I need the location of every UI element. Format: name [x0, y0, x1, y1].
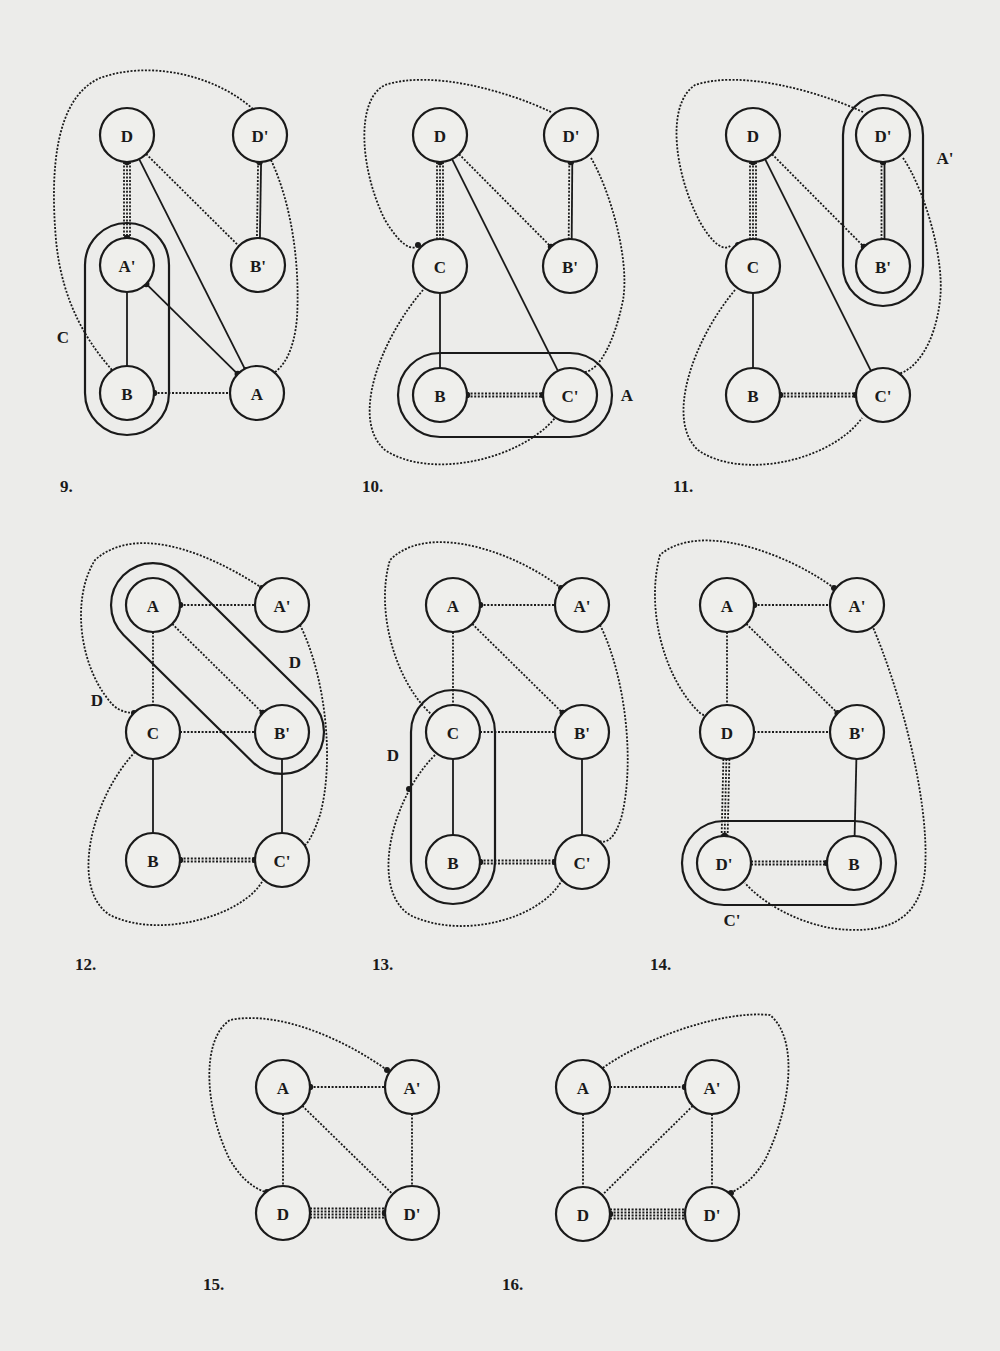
- node-label: D': [875, 127, 892, 146]
- figure-number: 12.: [75, 955, 96, 974]
- node-label: B: [848, 855, 859, 874]
- node-label: A: [251, 385, 264, 404]
- graph-node: C: [126, 705, 180, 759]
- node-label: A: [147, 597, 160, 616]
- graph-node: A: [230, 366, 284, 420]
- node-label: D: [721, 724, 733, 743]
- outer-region-curve: [388, 755, 562, 926]
- graph-node: C': [543, 368, 597, 422]
- node-label: D': [704, 1206, 721, 1225]
- figure-number: 9.: [60, 477, 73, 496]
- graph-node: A: [556, 1060, 610, 1114]
- node-label: D: [434, 127, 446, 146]
- graph-node: B': [543, 239, 597, 293]
- node-label: A: [277, 1079, 290, 1098]
- graph-edge: [746, 624, 837, 713]
- node-label: B: [121, 385, 132, 404]
- outer-region-curve: [745, 625, 926, 930]
- graph-node: A': [255, 578, 309, 632]
- node-label: A': [574, 597, 591, 616]
- node-label: C: [434, 258, 446, 277]
- graph-edge: [855, 759, 857, 836]
- graph-edge: [172, 624, 263, 713]
- graph-node: B': [231, 238, 285, 292]
- graph-node: D': [697, 836, 751, 890]
- figure-number: 15.: [203, 1275, 224, 1294]
- diagram-canvas: DD'A'B'BADD'CB'BC'DD'CB'BC'AA'CB'BC'AA'C…: [0, 0, 1000, 1351]
- node-label: D: [577, 1206, 589, 1225]
- node-label: C': [574, 854, 591, 873]
- figure-number: 11.: [673, 477, 693, 496]
- node-label: A': [404, 1079, 421, 1098]
- graph-node: D: [700, 705, 754, 759]
- figure-number: 16.: [502, 1275, 523, 1294]
- graph-edge: [728, 759, 730, 836]
- node-label: B': [574, 724, 590, 743]
- graph-node: B': [856, 239, 910, 293]
- graph-edge: [472, 624, 563, 713]
- graph-node: D: [556, 1187, 610, 1241]
- graph-edge: [572, 162, 573, 239]
- graph-node: C': [555, 835, 609, 889]
- graph-node: C: [426, 705, 480, 759]
- graph-edge: [722, 759, 724, 836]
- node-label: A': [849, 597, 866, 616]
- region-label: A': [937, 149, 954, 168]
- graph-node: C': [856, 368, 910, 422]
- graph-node: A': [830, 578, 884, 632]
- node-label: A': [274, 597, 291, 616]
- outer-region-curve: [88, 752, 263, 925]
- node-label: C': [562, 387, 579, 406]
- region-label: C: [57, 328, 69, 347]
- graph-node: A': [685, 1060, 739, 1114]
- node-label: D: [277, 1205, 289, 1224]
- node-label: B': [562, 258, 578, 277]
- labels-layer: C9.A10.A'11.DD12.D13.C'14.15.16.: [57, 149, 954, 1295]
- node-label: B: [147, 852, 158, 871]
- graph-node: D: [413, 108, 467, 162]
- figure-number: 14.: [650, 955, 671, 974]
- graph-node: D': [685, 1187, 739, 1241]
- region-label: C': [724, 911, 741, 930]
- graph-node: C: [413, 239, 467, 293]
- graph-node: A: [256, 1060, 310, 1114]
- node-label: B': [250, 257, 266, 276]
- graph-node: B': [830, 705, 884, 759]
- graph-node: A': [385, 1060, 439, 1114]
- graph-node: A: [126, 578, 180, 632]
- node-label: B': [875, 258, 891, 277]
- outer-region-curve: [385, 542, 561, 715]
- node-label: D': [716, 855, 733, 874]
- graph-edge: [257, 162, 258, 238]
- graph-node: D': [856, 108, 910, 162]
- graph-node: B': [255, 705, 309, 759]
- graph-node: B: [827, 836, 881, 890]
- region-label: D: [91, 691, 103, 710]
- graph-edge: [602, 1106, 693, 1195]
- graph-node: B: [726, 368, 780, 422]
- graph-node: D': [385, 1186, 439, 1240]
- graph-node: C': [255, 833, 309, 887]
- graph-node: B: [126, 833, 180, 887]
- node-label: D': [563, 127, 580, 146]
- node-label: C': [274, 852, 291, 871]
- node-label: C: [147, 724, 159, 743]
- graph-node: D: [726, 108, 780, 162]
- region-label: D: [387, 746, 399, 765]
- graph-node: A: [426, 578, 480, 632]
- edges-layer: [124, 154, 886, 1218]
- outer-dotted-curves-layer: [54, 70, 941, 1196]
- node-label: B: [447, 854, 458, 873]
- node-label: C': [875, 387, 892, 406]
- node-label: A': [704, 1079, 721, 1098]
- graph-node: C: [726, 239, 780, 293]
- node-label: B': [274, 724, 290, 743]
- figure-number: 10.: [362, 477, 383, 496]
- node-label: B: [747, 387, 758, 406]
- graph-node: B': [555, 705, 609, 759]
- graph-edge: [302, 1106, 392, 1194]
- node-label: A: [577, 1079, 590, 1098]
- graph-edge: [260, 162, 261, 238]
- node-label: D: [121, 127, 133, 146]
- graph-node: D': [544, 108, 598, 162]
